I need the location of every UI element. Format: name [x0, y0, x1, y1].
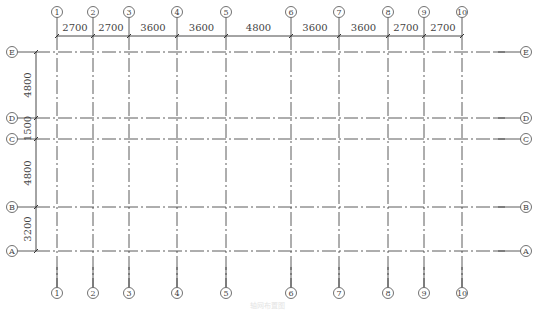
column-label: 5 — [223, 289, 228, 298]
column-label: 4 — [174, 8, 179, 17]
row-spacing-label: 3200 — [22, 216, 33, 241]
row-spacing-label: 4800 — [22, 72, 33, 97]
column-spacing-label: 2700 — [62, 22, 87, 33]
column-label: 10 — [457, 8, 467, 17]
column-label: 2 — [90, 289, 95, 298]
row-label: D — [523, 114, 529, 123]
row-spacing-label: 4800 — [22, 160, 33, 185]
column-label: 3 — [126, 289, 131, 298]
row-label: C — [9, 135, 15, 144]
column-spacing-label: 3600 — [302, 22, 327, 33]
row-label: A — [8, 247, 15, 256]
column-spacing-label: 3600 — [140, 22, 165, 33]
drawing-caption: 轴网布置图 — [0, 300, 534, 310]
column-label: 6 — [288, 8, 293, 17]
column-label: 1 — [54, 289, 59, 298]
column-spacing-label: 2700 — [98, 22, 123, 33]
row-spacing-label: 1500 — [22, 116, 33, 141]
column-spacing-label: 3600 — [189, 22, 214, 33]
column-spacing-label: 2700 — [430, 22, 455, 33]
column-label: 2 — [90, 8, 95, 17]
column-label: 5 — [223, 8, 228, 17]
column-spacing-label: 3600 — [351, 22, 376, 33]
column-label: 7 — [336, 289, 341, 298]
row-label: C — [523, 135, 529, 144]
column-label: 10 — [457, 289, 467, 298]
row-label: E — [523, 48, 529, 57]
column-label: 6 — [288, 289, 293, 298]
column-label: 9 — [421, 289, 426, 298]
row-label: B — [523, 203, 529, 212]
row-label: D — [9, 114, 15, 123]
column-label: 8 — [385, 289, 390, 298]
row-label: A — [522, 247, 529, 256]
column-label: 7 — [336, 8, 341, 17]
row-label: E — [9, 48, 15, 57]
column-spacing-label: 4800 — [246, 22, 271, 33]
column-label: 1 — [54, 8, 59, 17]
column-label: 3 — [126, 8, 131, 17]
column-spacing-label: 2700 — [393, 22, 418, 33]
column-label: 4 — [174, 289, 179, 298]
column-label: 8 — [385, 8, 390, 17]
axis-grid-drawing: 1122334455667788991010270027003600360048… — [0, 0, 534, 311]
row-label: B — [9, 203, 15, 212]
column-label: 9 — [421, 8, 426, 17]
grid-plan-svg: 1122334455667788991010270027003600360048… — [0, 0, 534, 311]
